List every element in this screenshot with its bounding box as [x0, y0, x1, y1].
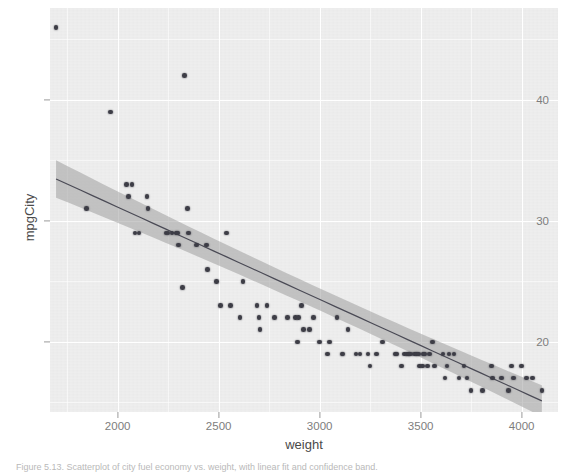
data-point	[180, 285, 185, 290]
data-point	[285, 315, 290, 320]
data-point	[176, 243, 181, 248]
y-tick-label: 20	[536, 336, 549, 348]
y-tick-mark	[44, 99, 50, 100]
data-point	[272, 315, 277, 320]
data-point	[307, 327, 312, 332]
data-point	[335, 315, 340, 320]
data-point	[399, 364, 404, 369]
data-point	[255, 303, 260, 308]
data-point	[416, 352, 421, 357]
x-tick-label: 4000	[509, 420, 535, 432]
regression-line	[56, 179, 542, 401]
x-tick-label: 3500	[408, 420, 434, 432]
data-point	[489, 364, 494, 369]
data-point	[311, 315, 316, 320]
data-point	[84, 206, 89, 211]
x-tick-mark	[521, 412, 522, 418]
data-point	[422, 352, 427, 357]
data-point	[185, 206, 190, 211]
data-point	[295, 340, 300, 345]
y-tick-label: 40	[536, 94, 549, 106]
data-point	[540, 388, 545, 393]
data-point	[374, 352, 379, 357]
data-point	[394, 352, 399, 357]
data-point	[175, 231, 180, 236]
y-axis-title: mpgCity	[22, 163, 37, 273]
data-point	[205, 267, 210, 272]
data-point	[327, 340, 332, 345]
data-point	[317, 340, 322, 345]
x-tick-mark	[218, 412, 219, 418]
data-point	[186, 231, 191, 236]
y-tick-mark	[44, 220, 50, 221]
data-point	[296, 315, 301, 320]
data-point	[380, 340, 385, 345]
plot-panel	[50, 8, 558, 412]
regression-layer	[50, 8, 558, 412]
data-point	[490, 376, 495, 381]
data-point	[124, 182, 129, 187]
data-point	[506, 388, 511, 393]
data-point	[130, 182, 135, 187]
x-axis-title: weight	[50, 437, 558, 452]
y-tick-mark	[44, 341, 50, 342]
data-point	[218, 303, 223, 308]
data-point	[182, 73, 187, 78]
x-tick-label: 2500	[206, 420, 232, 432]
x-tick-label: 2000	[105, 420, 131, 432]
data-point	[299, 303, 304, 308]
y-tick-label: 30	[536, 215, 549, 227]
data-point	[194, 243, 199, 248]
data-point	[214, 279, 219, 284]
plot-wrapper: 203040 20002500300035004000 weight mpgCi…	[0, 0, 563, 475]
data-point	[509, 364, 514, 369]
data-point	[54, 25, 59, 30]
x-tick-mark	[420, 412, 421, 418]
x-tick-mark	[319, 412, 320, 418]
data-point	[238, 315, 243, 320]
data-point	[480, 388, 485, 393]
x-tick-mark	[117, 412, 118, 418]
data-point	[301, 327, 306, 332]
data-point	[430, 340, 435, 345]
data-point	[241, 279, 246, 284]
data-point	[228, 303, 233, 308]
data-point	[469, 388, 474, 393]
figure-container: 203040 20002500300035004000 weight mpgCi…	[0, 0, 563, 475]
figure-caption: Figure 5.13. Scatterplot of city fuel ec…	[16, 462, 556, 475]
x-tick-label: 3000	[307, 420, 333, 432]
data-point	[126, 194, 131, 199]
